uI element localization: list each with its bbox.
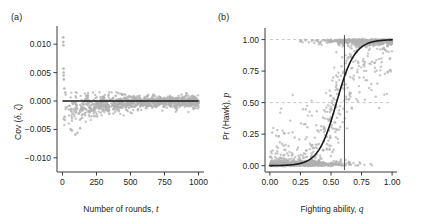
data-point [357,61,359,63]
data-point [68,114,70,116]
data-point [287,160,289,162]
data-point [185,94,187,96]
data-point [63,116,65,118]
data-point [368,62,370,64]
data-point [275,145,277,147]
data-point [328,144,330,146]
data-point [89,111,91,113]
data-point [280,107,282,109]
data-point [334,128,336,130]
data-point [78,112,80,114]
data-point [382,52,384,54]
data-point [316,129,318,131]
data-point [145,107,147,109]
data-point [287,154,289,156]
data-point [121,93,123,95]
x-axis-tick-label: 1000 [189,177,208,187]
data-point [91,115,93,117]
data-point [310,152,312,154]
data-point [195,98,197,100]
data-point [322,116,324,118]
data-point [320,125,322,127]
data-point [310,144,312,146]
data-point [282,154,284,156]
data-point [108,112,110,114]
data-point [138,94,140,96]
data-point [326,118,328,120]
data-point [332,96,334,98]
data-point [188,97,190,99]
data-point [75,118,77,120]
data-point [282,145,284,147]
data-point [374,38,376,40]
data-point [346,86,348,88]
data-point [288,151,290,153]
data-point [300,154,302,156]
data-point [341,40,343,42]
data-point [151,98,153,100]
data-point [287,145,289,147]
data-point [382,41,384,43]
data-point [380,57,382,59]
data-point [148,105,150,107]
data-point [90,119,92,121]
data-point [70,96,72,98]
y-axis-tick-label: 0.25 [242,129,259,139]
data-point [371,164,373,166]
data-point [112,108,114,110]
data-point [193,107,195,109]
data-point [320,44,322,46]
data-point [99,106,101,108]
data-point [316,143,318,145]
data-point [65,94,67,96]
data-point [98,110,100,112]
data-point [351,42,353,44]
panel-a-x-axis-title: Number of rounds, t [36,204,206,214]
data-point [330,39,332,41]
data-point [329,108,331,110]
data-point [293,158,295,160]
x-axis-tick-label: 0.25 [292,177,309,187]
data-point [306,105,308,107]
data-point [274,156,276,158]
data-point [161,110,163,112]
data-point [64,106,66,108]
data-point [79,95,81,97]
data-point [68,108,70,110]
data-point [128,106,130,108]
data-point [350,47,352,49]
data-point [296,149,298,151]
data-point [336,76,338,78]
data-point [119,93,121,95]
data-point [305,149,307,151]
data-point [189,105,191,107]
data-point [269,156,271,158]
data-point [114,111,116,113]
data-point [312,164,314,166]
data-point [361,38,363,40]
data-point [329,137,331,139]
data-point [316,110,318,112]
data-point [363,63,365,65]
data-point [191,94,193,96]
data-point [174,111,176,113]
data-point [320,129,322,131]
data-point [353,74,355,76]
data-point [139,103,141,105]
data-point [332,148,334,150]
y-axis-tick-label: −0.010 [25,153,52,163]
data-point [367,52,369,54]
data-point [324,40,326,42]
data-point [338,109,340,111]
panel-b-x-axis-title: Fighting ability, q [247,204,417,214]
data-point [319,41,321,43]
data-point [340,65,342,67]
data-point [338,39,340,41]
data-point [327,163,329,165]
panel-a: (a) 0.0100.0050.000−0.005−0.010025050075… [0,0,211,224]
data-point [175,104,177,106]
data-point [363,164,365,166]
data-point [379,69,381,71]
data-point [383,94,385,96]
data-point [378,107,380,109]
